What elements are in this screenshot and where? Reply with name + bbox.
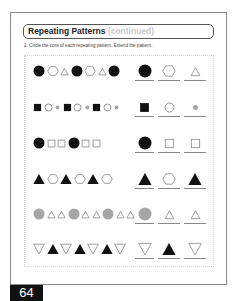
- hexagon-outline-icon[interactable]: [47, 173, 59, 185]
- black-triangle-icon[interactable]: [74, 243, 86, 255]
- answer-underline: [158, 258, 180, 259]
- answer-blank[interactable]: [135, 59, 154, 83]
- gray-circle-icon[interactable]: [68, 208, 80, 220]
- answer-underline: [184, 188, 206, 189]
- pattern-row: [0, 131, 239, 155]
- pattern-row: [0, 202, 239, 226]
- down-triangle-outline-icon[interactable]: [60, 243, 72, 255]
- gray-circle-icon[interactable]: [33, 208, 45, 220]
- triangle-outline-icon[interactable]: [81, 210, 90, 219]
- answer-blank[interactable]: [184, 59, 206, 83]
- triangle-outline-icon[interactable]: [116, 210, 125, 219]
- black-square-icon[interactable]: [92, 103, 101, 112]
- hexagon-outline-icon[interactable]: [101, 173, 113, 185]
- answer-underline: [135, 223, 154, 224]
- square-outline-icon[interactable]: [81, 139, 90, 148]
- triangle-outline-icon[interactable]: [126, 210, 135, 219]
- circle-outline-icon[interactable]: [73, 103, 82, 112]
- gray-dot-icon[interactable]: [54, 104, 61, 111]
- triangle-outline-icon[interactable]: [47, 210, 56, 219]
- answer-blank[interactable]: [135, 131, 154, 155]
- triangle-outline-icon[interactable]: [92, 210, 101, 219]
- answer-blank[interactable]: [135, 202, 154, 226]
- black-circle-icon[interactable]: [108, 65, 120, 77]
- answer-blank[interactable]: [184, 237, 206, 261]
- down-triangle-outline-icon[interactable]: [87, 243, 99, 255]
- answer-underline: [135, 116, 154, 117]
- gray-dot-icon[interactable]: [113, 104, 120, 111]
- triangle-outline-icon[interactable]: [60, 67, 69, 76]
- pattern-row: [0, 59, 239, 83]
- black-square-icon[interactable]: [63, 103, 72, 112]
- black-circle-icon[interactable]: [33, 137, 45, 149]
- black-square-icon[interactable]: [33, 103, 42, 112]
- answer-underline: [184, 223, 206, 224]
- black-triangle-icon[interactable]: [60, 173, 72, 185]
- answer-underline: [184, 80, 206, 81]
- section-subtitle: (continued): [108, 26, 154, 36]
- circle-outline-icon[interactable]: [44, 103, 53, 112]
- square-outline-icon[interactable]: [92, 139, 101, 148]
- answer-underline: [135, 188, 154, 189]
- answer-blank[interactable]: [158, 59, 180, 83]
- gray-dot-icon[interactable]: [84, 104, 91, 111]
- circle-outline-icon: [164, 102, 175, 113]
- square-outline-icon: [164, 138, 175, 149]
- black-circle-icon[interactable]: [68, 137, 80, 149]
- answer-underline: [135, 258, 154, 259]
- answer-underline: [184, 258, 206, 259]
- answer-blank[interactable]: [184, 167, 206, 191]
- answer-underline: [135, 80, 154, 81]
- exercise-box: [24, 55, 214, 267]
- hexagon-outline-icon[interactable]: [74, 173, 86, 185]
- gray-circle-icon[interactable]: [102, 208, 114, 220]
- answer-blank[interactable]: [135, 237, 154, 261]
- down-triangle-outline-icon[interactable]: [114, 243, 126, 255]
- section-title: Repeating Patterns: [28, 26, 105, 36]
- black-triangle-icon[interactable]: [33, 173, 45, 185]
- black-triangle-icon[interactable]: [47, 243, 59, 255]
- answer-blank[interactable]: [184, 202, 206, 226]
- black-circle-icon: [138, 136, 152, 150]
- triangle-outline-icon: [164, 209, 175, 220]
- answer-underline: [184, 116, 206, 117]
- section-header: Repeating Patterns (continued): [23, 24, 214, 39]
- black-circle-icon[interactable]: [33, 65, 45, 77]
- triangle-outline-icon[interactable]: [57, 210, 66, 219]
- pattern-row: [0, 95, 239, 119]
- black-circle-icon: [138, 64, 152, 78]
- answer-blank[interactable]: [184, 131, 206, 155]
- gray-circle-icon: [138, 207, 152, 221]
- answer-blank[interactable]: [135, 167, 154, 191]
- down-triangle-outline-icon[interactable]: [33, 243, 45, 255]
- answer-blank[interactable]: [158, 95, 180, 119]
- answer-underline: [158, 223, 180, 224]
- answer-blank[interactable]: [184, 95, 206, 119]
- hexagon-outline-icon: [162, 64, 176, 78]
- answer-blank[interactable]: [158, 131, 180, 155]
- gray-dot-icon: [191, 103, 200, 112]
- square-outline-icon[interactable]: [57, 139, 66, 148]
- triangle-outline-icon: [190, 66, 201, 77]
- answer-underline: [135, 152, 154, 153]
- square-outline-icon[interactable]: [47, 139, 56, 148]
- black-circle-icon[interactable]: [71, 65, 83, 77]
- hexagon-outline-icon[interactable]: [84, 65, 96, 77]
- answer-blank[interactable]: [158, 202, 180, 226]
- down-triangle-outline-icon: [138, 242, 152, 256]
- black-triangle-icon[interactable]: [101, 243, 113, 255]
- answer-blank[interactable]: [135, 95, 154, 119]
- black-triangle-icon: [162, 242, 176, 256]
- circle-outline-icon[interactable]: [103, 103, 112, 112]
- answer-blank[interactable]: [158, 237, 180, 261]
- answer-underline: [158, 116, 180, 117]
- black-square-icon: [139, 102, 150, 113]
- square-outline-icon: [190, 138, 201, 149]
- answer-blank[interactable]: [158, 167, 180, 191]
- black-triangle-icon[interactable]: [87, 173, 99, 185]
- pattern-row: [0, 167, 239, 191]
- triangle-outline-icon: [190, 209, 201, 220]
- page-number: 64: [10, 285, 43, 301]
- hexagon-outline-icon[interactable]: [47, 65, 59, 77]
- triangle-outline-icon[interactable]: [98, 67, 107, 76]
